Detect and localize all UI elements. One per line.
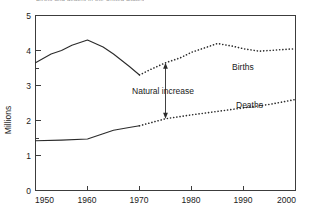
births-deaths-chart: Births and deaths in the United States 0… xyxy=(0,0,309,217)
natural-increase-arrowhead-up xyxy=(163,63,168,69)
y-tick-label-3: 3 xyxy=(26,81,31,91)
figure-caption-clipped: Births and deaths in the United States xyxy=(36,0,144,1)
x-tick-label-1970: 1970 xyxy=(130,195,149,205)
y-tick-label-4: 4 xyxy=(26,46,31,56)
x-tick-label-1950: 1950 xyxy=(35,195,54,205)
y-axis-ticks xyxy=(36,16,41,191)
series-label-deaths: Deaths xyxy=(236,100,263,110)
births-line-projected xyxy=(140,44,296,76)
x-tick-label-1980: 1980 xyxy=(182,195,201,205)
y-tick-label-5: 5 xyxy=(26,11,31,21)
natural-increase-label: Natural increase xyxy=(132,86,194,96)
y-tick-label-2: 2 xyxy=(26,116,31,126)
y-axis-title: Millions xyxy=(3,106,13,134)
series-label-births: Births xyxy=(232,62,254,72)
y-tick-label-0: 0 xyxy=(26,186,31,196)
x-axis-ticks xyxy=(36,186,296,191)
x-tick-label-1960: 1960 xyxy=(78,195,97,205)
chart-svg: 0 1 2 3 4 5 Millions 1950 1960 1970 1980… xyxy=(0,0,309,217)
x-tick-label-2000: 2000 xyxy=(277,195,296,205)
x-tick-label-1990: 1990 xyxy=(234,195,253,205)
deaths-line-projected xyxy=(140,100,296,126)
y-tick-label-1: 1 xyxy=(26,151,31,161)
births-line-historical xyxy=(36,40,140,75)
deaths-line-historical xyxy=(36,126,140,141)
